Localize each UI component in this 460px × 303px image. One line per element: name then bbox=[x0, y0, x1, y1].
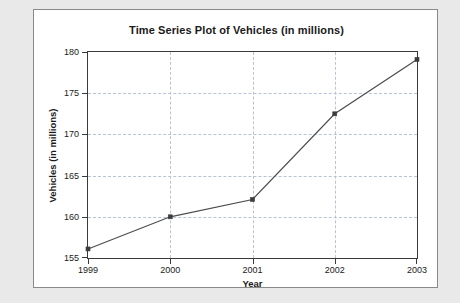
data-point-marker bbox=[251, 198, 255, 202]
y-axis-tick-label: 155 bbox=[64, 253, 79, 263]
chart-figure: Time Series Plot of Vehicles (in million… bbox=[33, 9, 438, 288]
series-vehicles bbox=[88, 52, 417, 258]
x-axis-tick bbox=[416, 258, 417, 264]
y-axis-tick-label: 170 bbox=[64, 129, 79, 139]
x-axis-tick bbox=[253, 258, 254, 264]
x-axis-tick bbox=[88, 258, 89, 264]
x-axis-tick-label: 2002 bbox=[325, 265, 345, 275]
x-axis-tick-label: 1999 bbox=[78, 265, 98, 275]
data-point-marker bbox=[168, 215, 172, 219]
chart-title: Time Series Plot of Vehicles (in million… bbox=[34, 24, 439, 36]
y-axis-tick-label: 175 bbox=[64, 88, 79, 98]
plot-area: 155160165170175180 19992000200120022003 bbox=[87, 51, 418, 259]
y-axis-title-text: Vehicles (in millions) bbox=[48, 108, 59, 202]
x-axis-title: Year bbox=[87, 278, 418, 289]
data-point-marker bbox=[333, 112, 337, 116]
x-axis-tick bbox=[170, 258, 171, 264]
y-axis-title: Vehicles (in millions) bbox=[46, 51, 60, 259]
data-point-marker bbox=[415, 57, 419, 61]
x-axis-tick bbox=[335, 258, 336, 264]
y-axis-tick-label: 165 bbox=[64, 171, 79, 181]
x-axis-tick-label: 2003 bbox=[407, 265, 427, 275]
x-axis-tick-label: 2000 bbox=[160, 265, 180, 275]
data-point-marker bbox=[86, 247, 90, 251]
x-axis-tick-label: 2001 bbox=[242, 265, 262, 275]
y-axis-tick-label: 180 bbox=[64, 47, 79, 57]
series-line bbox=[88, 59, 417, 249]
y-axis-tick-label: 160 bbox=[64, 212, 79, 222]
